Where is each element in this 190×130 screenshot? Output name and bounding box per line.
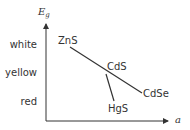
level-yellow: yellow (5, 67, 37, 78)
level-red: red (21, 96, 37, 107)
line-cds-hgs (106, 74, 114, 101)
label-cds: CdS (107, 61, 127, 72)
line-zns-cdse (70, 47, 142, 93)
level-white: white (10, 39, 37, 50)
x-axis-label: a (175, 114, 181, 125)
label-cdse: CdSe (143, 88, 169, 99)
label-zns: ZnS (58, 35, 78, 46)
label-hgs: HgS (108, 103, 128, 114)
y-axis-label: Eg (37, 6, 50, 19)
band-gap-diagram: Eg a white yellow red ZnS CdS CdSe HgS (0, 0, 190, 130)
